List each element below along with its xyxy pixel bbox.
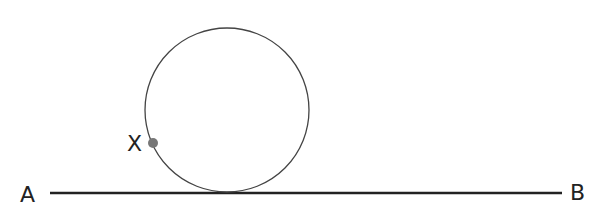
diagram-canvas: A B X [0,0,607,209]
label-x: X [127,131,142,156]
diagram-svg: A B X [0,0,607,209]
rolling-circle [145,28,309,192]
label-a: A [20,182,35,207]
point-x-marker [148,138,158,148]
label-b: B [570,180,585,205]
